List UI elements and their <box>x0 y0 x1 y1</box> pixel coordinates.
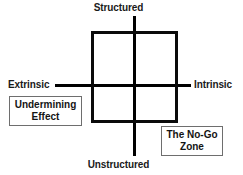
axis-label-left: Extrinsic <box>8 79 49 90</box>
diagram-canvas: Structured Unstructured Extrinsic Intrin… <box>0 0 243 175</box>
callout-undermining-effect-label: Undermining Effect <box>10 99 81 123</box>
callout-undermining-effect: Undermining Effect <box>9 96 82 126</box>
axis-label-right: Intrinsic <box>194 79 232 90</box>
axis-label-bottom: Unstructured <box>0 159 243 170</box>
callout-no-go-zone: The No-Go Zone <box>161 126 223 156</box>
callout-no-go-zone-label: The No-Go Zone <box>162 129 222 153</box>
quadrant-square <box>91 31 178 123</box>
axis-label-top: Structured <box>0 2 243 13</box>
